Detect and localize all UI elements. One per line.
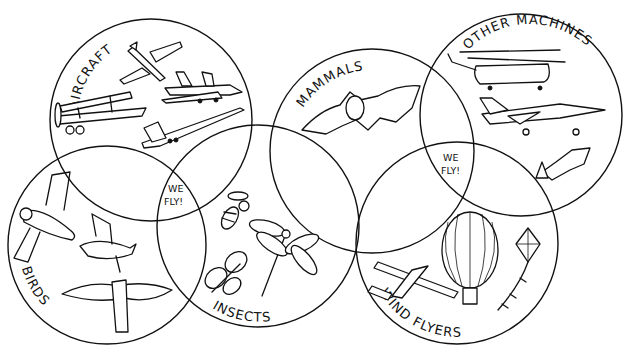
light-plane-icon [120,42,182,84]
jet-fighter-icon [480,98,605,135]
dove-icon [80,214,136,272]
dragonfly-icon [248,217,321,296]
rocket-icon [536,148,590,180]
kite-icon [498,228,540,310]
helicopter-icon [448,50,565,90]
overlap-label-left-line2: FLY! [164,196,183,207]
flyers-diagram: AIRCRAFT BIRDS INSECTS MAMMALS OTHER MAC… [0,0,624,351]
bee-icon [218,192,249,232]
biplane-icon [55,92,146,134]
butterfly-icon [201,247,251,297]
jet-airliner-icon [162,72,242,103]
overlap-label-left-line1: WE [168,183,183,194]
circle-mammals [270,49,474,253]
overlap-label-right-line1: WE [443,152,458,163]
label-other-machines: OTHER MACHINES [460,12,596,52]
supersonic-airliner-icon [142,108,244,148]
eagle-icon [62,280,172,332]
label-insects: INSECTS [210,298,272,325]
owl-icon [14,172,75,262]
overlap-label-right-line2: FLY! [441,165,460,176]
label-birds: BIRDS [19,264,53,309]
bat-icon [302,86,420,134]
